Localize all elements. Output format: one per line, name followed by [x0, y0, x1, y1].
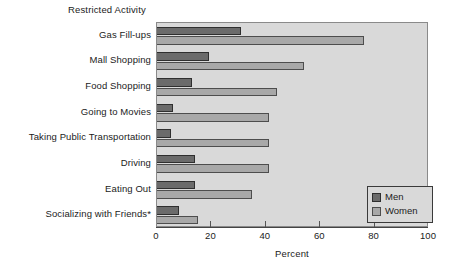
chart-legend: MenWomen — [367, 186, 433, 223]
bar-group — [157, 49, 427, 75]
legend-swatch-women — [372, 207, 381, 216]
bar-group — [157, 100, 427, 126]
bar-men — [157, 78, 192, 87]
x-axis-tick-label: 0 — [153, 230, 158, 241]
category-label: Mall Shopping — [1, 54, 151, 65]
bar-women — [157, 190, 252, 199]
bar-women — [157, 88, 277, 97]
x-axis-tick-label: 100 — [420, 230, 436, 241]
legend-label: Women — [385, 206, 418, 216]
category-label: Going to Movies — [1, 106, 151, 117]
bar-women — [157, 36, 364, 45]
bar-men — [157, 155, 195, 164]
category-label: Driving — [1, 157, 151, 168]
bar-women — [157, 216, 198, 225]
bar-men — [157, 129, 171, 138]
category-label: Taking Public Transportation — [1, 131, 151, 142]
chart-title: Restricted Activity — [68, 4, 146, 15]
category-label: Food Shopping — [1, 80, 151, 91]
bar-men — [157, 206, 179, 215]
bar-women — [157, 139, 269, 148]
bar-women — [157, 164, 269, 173]
x-axis-line — [156, 227, 428, 228]
category-label: Socializing with Friends* — [1, 208, 151, 219]
bar-group — [157, 74, 427, 100]
bar-group — [157, 151, 427, 177]
bar-men — [157, 52, 209, 61]
x-axis-tick-label: 40 — [260, 230, 271, 241]
legend-swatch-men — [372, 193, 381, 202]
x-axis-tick-label: 80 — [368, 230, 379, 241]
x-axis-tick — [210, 221, 211, 227]
bar-women — [157, 62, 304, 71]
bar-group — [157, 23, 427, 49]
x-axis-tick-label: 60 — [314, 230, 325, 241]
bar-men — [157, 27, 241, 36]
category-label: Gas Fill-ups — [1, 29, 151, 40]
bar-men — [157, 104, 173, 113]
category-label: Eating Out — [1, 183, 151, 194]
bar-men — [157, 181, 195, 190]
x-axis-tick — [319, 221, 320, 227]
legend-entry: Women — [372, 204, 428, 218]
x-axis-tick — [265, 221, 266, 227]
bar-chart-figure: Restricted Activity Gas Fill-upsMall Sho… — [0, 0, 450, 271]
bar-women — [157, 113, 269, 122]
category-axis-labels: Gas Fill-upsMall ShoppingFood ShoppingGo… — [0, 22, 151, 227]
legend-entry: Men — [372, 190, 428, 204]
legend-label: Men — [385, 192, 403, 202]
x-axis-tick-label: 20 — [205, 230, 216, 241]
x-axis-title: Percent — [156, 248, 428, 259]
bar-group — [157, 126, 427, 152]
